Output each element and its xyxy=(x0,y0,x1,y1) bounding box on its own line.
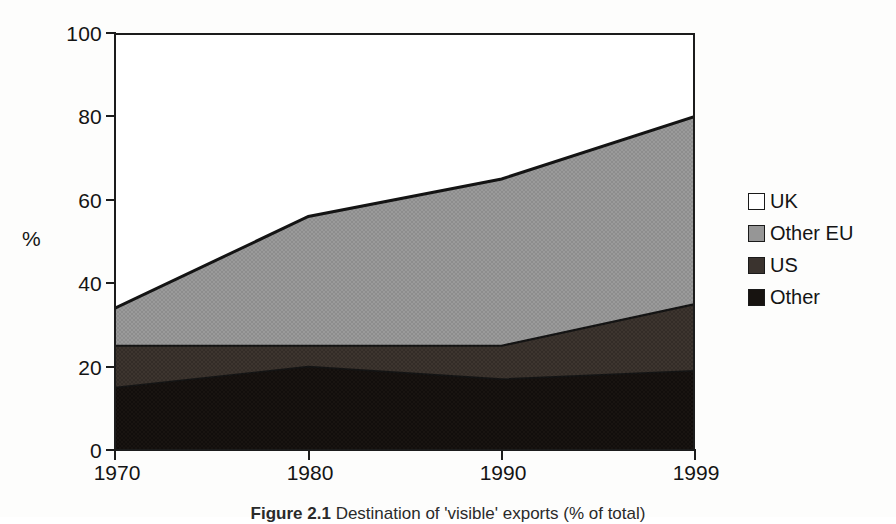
legend-label-uk: UK xyxy=(770,191,798,211)
y-tick-label-0: 0 xyxy=(44,440,102,461)
y-axis-line xyxy=(114,32,116,451)
x-axis-line xyxy=(114,449,696,451)
y-tick-label-40: 40 xyxy=(44,273,102,294)
chart-plot-area xyxy=(115,33,695,450)
legend-swatch-other xyxy=(748,289,765,306)
y-tick-60 xyxy=(106,199,115,201)
y-tick-label-80: 80 xyxy=(44,106,102,127)
x-tick-label-1980: 1980 xyxy=(265,462,355,484)
x-tick-label-1990: 1990 xyxy=(458,462,548,484)
legend-item-uk[interactable]: UK xyxy=(748,186,888,216)
x-tick-label-1970: 1970 xyxy=(72,462,162,484)
x-tick-1999 xyxy=(694,451,696,460)
legend-swatch-us xyxy=(748,257,765,274)
chart-legend: UK Other EU US Other xyxy=(748,186,888,314)
legend-item-other-eu[interactable]: Other EU xyxy=(748,218,888,248)
y-tick-label-100: 100 xyxy=(44,23,102,44)
x-tick-label-1999: 1999 xyxy=(651,462,741,484)
legend-swatch-other-eu xyxy=(748,225,765,242)
legend-label-other: Other xyxy=(770,287,820,307)
stacked-area-chart xyxy=(115,33,695,450)
x-tick-1990 xyxy=(501,451,503,460)
y-tick-label-60: 60 xyxy=(44,190,102,211)
figure-caption-prefix: Figure 2.1 xyxy=(251,504,331,523)
y-tick-label-20: 20 xyxy=(44,357,102,378)
y-tick-40 xyxy=(106,282,115,284)
y-tick-80 xyxy=(106,115,115,117)
x-tick-1970 xyxy=(114,451,116,460)
legend-swatch-uk xyxy=(748,193,765,210)
legend-item-us[interactable]: US xyxy=(748,250,888,280)
area-other xyxy=(115,367,695,450)
figure-caption: Figure 2.1 Destination of 'visible' expo… xyxy=(0,504,896,524)
y-tick-100 xyxy=(106,32,115,34)
legend-item-other[interactable]: Other xyxy=(748,282,888,312)
y-axis-title: % xyxy=(22,228,41,249)
y-axis-tick-labels: 100 80 60 40 20 0 xyxy=(40,0,102,470)
legend-label-us: US xyxy=(770,255,798,275)
x-tick-1980 xyxy=(308,451,310,460)
y-tick-20 xyxy=(106,366,115,368)
legend-label-other-eu: Other EU xyxy=(770,223,853,243)
figure-caption-text: Destination of 'visible' exports (% of t… xyxy=(336,504,646,523)
